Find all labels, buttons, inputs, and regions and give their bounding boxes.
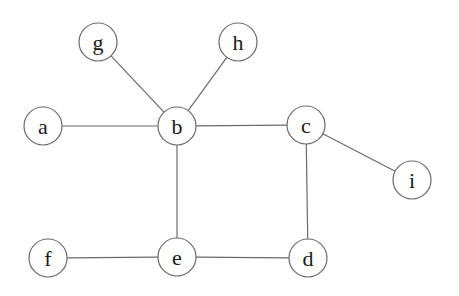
node-label: g — [93, 30, 104, 55]
node-c: c — [287, 106, 325, 144]
edge-g-b — [111, 56, 164, 112]
node-label: h — [233, 30, 244, 55]
edge-c-i — [323, 134, 395, 171]
node-g: g — [79, 23, 117, 61]
node-f: f — [29, 239, 67, 277]
node-label: d — [303, 246, 314, 271]
graph-svg: ghabcifed — [0, 0, 459, 296]
node-e: e — [158, 238, 196, 276]
node-label: i — [409, 168, 415, 193]
node-label: e — [172, 245, 182, 270]
edge-c-d — [306, 144, 307, 239]
node-h: h — [219, 23, 257, 61]
graph-diagram: ghabcifed — [0, 0, 459, 296]
node-a: a — [24, 107, 62, 145]
node-label: b — [172, 114, 183, 139]
edges-layer — [62, 56, 395, 258]
node-b: b — [158, 107, 196, 145]
node-d: d — [289, 239, 327, 277]
node-label: f — [44, 246, 52, 271]
node-label: a — [38, 114, 48, 139]
edge-b-c — [196, 125, 287, 126]
node-i: i — [393, 161, 431, 199]
node-label: c — [301, 113, 311, 138]
edge-h-b — [188, 57, 227, 110]
nodes-layer: ghabcifed — [24, 23, 431, 277]
edge-f-e — [67, 257, 158, 258]
edge-e-d — [196, 257, 289, 258]
